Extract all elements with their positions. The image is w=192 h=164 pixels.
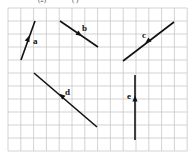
vector-label: c [142,30,146,40]
vector-d: d [34,73,97,127]
vector-label: b [82,23,87,33]
vector-grid-diagram: abcde [0,0,192,164]
grid-lines [8,8,187,151]
vector-line [34,73,97,127]
vector-label: a [33,36,38,46]
vector-label: d [65,87,70,97]
arrowhead-icon [132,96,137,102]
arrowhead-icon [25,36,30,43]
vector-label: e [127,91,131,101]
vector-a: a [21,21,38,60]
